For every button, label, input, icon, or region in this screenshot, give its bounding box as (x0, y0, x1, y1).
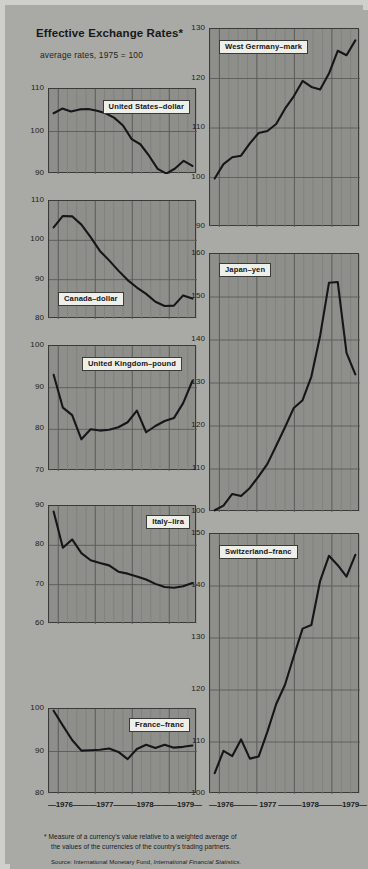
y-tick-label: 80 (18, 423, 44, 432)
chart-panel-united-states-dollar: 90100110United States–dollar (48, 88, 196, 173)
source-prefix: Source: International Monetary Fund, (51, 859, 154, 865)
footnote: * Measure of a currency's value relative… (44, 832, 344, 851)
y-tick-label: 130 (179, 377, 205, 386)
y-tick-label: 90 (18, 168, 44, 177)
y-tick-label: 140 (179, 580, 205, 589)
y-tick-label: 120 (179, 420, 205, 429)
chart-panel-france-franc: 8090100France–franc (48, 708, 196, 793)
chart-panel-west-germany-mark: 90100110120130West Germany–mark (209, 28, 359, 226)
y-tick-label: 60 (18, 618, 44, 627)
page-subtitle: average rates, 1975 = 100 (40, 50, 143, 60)
y-tick-label: 160 (179, 248, 205, 257)
chart-panel-japan-yen: 100110120130140150160Japan–yen (209, 253, 359, 511)
source-publication: International Financial Statistics. (154, 859, 242, 865)
page-title: Effective Exchange Rates* (36, 27, 183, 39)
x-axis-right: —1976——— 1977 ———1978———1979— (209, 800, 359, 809)
y-tick-label: 100 (179, 506, 205, 515)
y-tick-label: 90 (18, 274, 44, 283)
series-label: Italy–lira (146, 515, 190, 529)
source-note: Source: International Monetary Fund, Int… (51, 859, 351, 865)
y-tick-label: 130 (179, 632, 205, 641)
chart-panel-switzerland-franc: 100110120130140150Switzerland–franc (209, 533, 359, 793)
y-tick-label: 110 (18, 195, 44, 204)
y-tick-label: 140 (179, 334, 205, 343)
chart-page: Effective Exchange Rates* average rates,… (0, 0, 368, 869)
series-label: Japan–yen (219, 263, 271, 277)
y-tick-label: 90 (18, 746, 44, 755)
y-tick-label: 90 (18, 500, 44, 509)
plot-area (209, 533, 359, 793)
series-label: Switzerland–franc (219, 545, 298, 559)
y-tick-label: 150 (179, 528, 205, 537)
y-tick-label: 100 (18, 340, 44, 349)
y-tick-label: 80 (18, 788, 44, 797)
y-tick-label: 80 (18, 313, 44, 322)
y-tick-label: 110 (179, 463, 205, 472)
y-tick-label: 150 (179, 291, 205, 300)
y-tick-label: 100 (18, 126, 44, 135)
y-tick-label: 70 (18, 579, 44, 588)
y-tick-label: 100 (18, 703, 44, 712)
x-axis-left: —1976———1977———1978———1979— (48, 800, 196, 809)
y-tick-label: 90 (18, 382, 44, 391)
y-tick-label: 100 (18, 234, 44, 243)
chart-panel-canada-dollar: 8090100110Canada–dollar (48, 200, 196, 318)
footnote-line-2: the values of the currencies of the coun… (51, 843, 231, 850)
y-tick-label: 80 (18, 539, 44, 548)
series-label: France–franc (129, 718, 190, 732)
footnote-line-1: Measure of a currency's value relative t… (49, 833, 237, 840)
plot-area (209, 253, 359, 511)
y-tick-label: 130 (179, 23, 205, 32)
y-tick-label: 90 (179, 221, 205, 230)
y-tick-label: 100 (179, 788, 205, 797)
series-label: United Kingdom–pound (82, 357, 182, 371)
plot-area (209, 28, 359, 226)
y-tick-label: 110 (179, 736, 205, 745)
series-label: United States–dollar (103, 100, 190, 114)
chart-panel-united-kingdom-pound: 708090100United Kingdom–pound (48, 345, 196, 470)
series-label: West Germany–mark (219, 40, 308, 54)
chart-panel-italy-lira: 60708090Italy–lira (48, 505, 196, 623)
y-tick-label: 110 (179, 122, 205, 131)
chart-canvas: Effective Exchange Rates* average rates,… (10, 10, 368, 869)
y-tick-label: 120 (179, 73, 205, 82)
y-tick-label: 100 (179, 172, 205, 181)
y-tick-label: 70 (18, 465, 44, 474)
series-label: Canada–dollar (58, 292, 124, 306)
y-tick-label: 110 (18, 83, 44, 92)
y-tick-label: 120 (179, 684, 205, 693)
